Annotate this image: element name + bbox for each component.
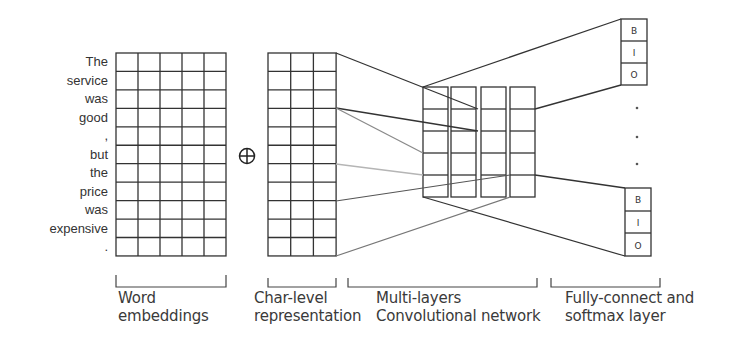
bracket-word xyxy=(116,275,226,287)
label-o-bottom: O xyxy=(634,241,641,251)
caption-word-embeddings: Word embeddings xyxy=(118,289,209,325)
token: good xyxy=(0,109,108,128)
label-b-bottom: B xyxy=(635,195,641,205)
token: . xyxy=(0,238,108,257)
token: service xyxy=(0,72,108,91)
diagram-canvas: B I O B I O Theservicewasgood,butthepric… xyxy=(0,0,745,361)
cnn-column xyxy=(510,87,535,197)
cnn-layers xyxy=(423,87,535,197)
token: price xyxy=(0,183,108,202)
caption-char-level: Char-level representation xyxy=(254,289,361,325)
token: The xyxy=(0,53,108,72)
section-brackets xyxy=(116,275,660,287)
caption-fc-softmax: Fully-connect and softmax layer xyxy=(565,289,694,325)
cnn-column xyxy=(481,87,506,197)
bracket-char xyxy=(268,278,336,287)
concat-icon xyxy=(240,149,255,164)
token: was xyxy=(0,90,108,109)
token: , xyxy=(0,127,108,146)
bracket-fc xyxy=(551,278,660,287)
word-embeddings-grid xyxy=(116,53,226,256)
output-box-bottom: B I O xyxy=(625,188,651,256)
label-i-top: I xyxy=(633,48,636,58)
char-level-grid xyxy=(268,53,336,256)
caption-cnn: Multi-layers Convolutional network xyxy=(376,289,540,325)
token: but xyxy=(0,146,108,165)
input-sentence: Theservicewasgood,butthepricewasexpensiv… xyxy=(0,53,108,257)
token: the xyxy=(0,164,108,183)
bracket-cnn xyxy=(348,278,537,287)
token: expensive xyxy=(0,220,108,239)
output-box-top: B I O xyxy=(621,19,647,85)
label-i-bottom: I xyxy=(637,218,640,228)
cnn-column xyxy=(423,87,448,197)
ellipsis-icon xyxy=(636,107,639,166)
token: was xyxy=(0,201,108,220)
label-b-top: B xyxy=(631,26,637,36)
label-o-top: O xyxy=(630,70,637,80)
